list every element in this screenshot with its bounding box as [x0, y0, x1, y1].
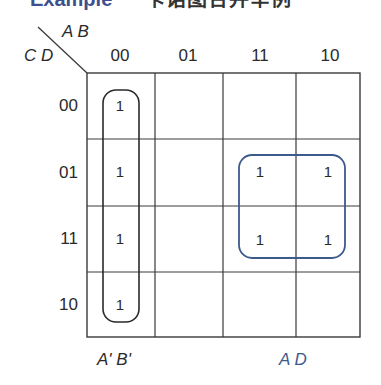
- cell-r1-c0: 1: [110, 163, 130, 181]
- row-header-10: 10: [48, 295, 78, 315]
- col-variable-label: A B: [62, 22, 89, 42]
- term-label-a-prime-b-prime: A' B': [97, 350, 131, 370]
- col-header-11: 11: [240, 46, 280, 66]
- cell-r0-c0: 1: [110, 97, 130, 115]
- row-header-00: 00: [48, 96, 78, 116]
- col-header-10: 10: [310, 46, 350, 66]
- cell-r2-c0: 1: [110, 230, 130, 248]
- col-header-00: 00: [100, 46, 140, 66]
- cell-r1-c2: 1: [250, 163, 270, 181]
- cell-r1-c3: 1: [318, 163, 338, 181]
- col-header-01: 01: [168, 46, 208, 66]
- row-header-01: 01: [48, 163, 78, 183]
- cell-r2-c2: 1: [250, 231, 270, 249]
- cell-r3-c0: 1: [110, 296, 130, 314]
- row-header-11: 11: [48, 229, 78, 249]
- cell-r2-c3: 1: [318, 231, 338, 249]
- row-variable-label: C D: [24, 46, 53, 66]
- term-label-a-d: A D: [279, 350, 307, 370]
